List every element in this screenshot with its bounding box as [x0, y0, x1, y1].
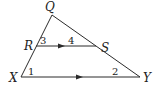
vertex-label-Q: Q: [45, 0, 55, 14]
angle-label-3: 3: [40, 35, 46, 46]
angle-label-1: 1: [28, 66, 34, 77]
vertex-label-Y: Y: [143, 71, 152, 85]
vertex-label-S: S: [101, 41, 109, 55]
angle-label-4: 4: [68, 35, 74, 46]
triangle-diagram: Q R S X Y 3 4 1 2: [0, 0, 159, 90]
parallel-arrow-icon: [58, 44, 65, 49]
vertex-label-X: X: [8, 71, 18, 85]
vertex-label-R: R: [23, 39, 33, 53]
parallel-arrow-icon: [76, 75, 83, 80]
angle-label-2: 2: [112, 66, 118, 77]
